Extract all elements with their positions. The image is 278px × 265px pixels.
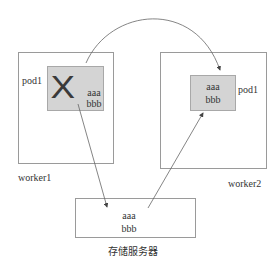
restore-arrow — [148, 113, 203, 208]
migrate-arrow — [86, 19, 220, 70]
backup-arrow — [78, 104, 107, 207]
arrows-layer — [0, 0, 278, 265]
